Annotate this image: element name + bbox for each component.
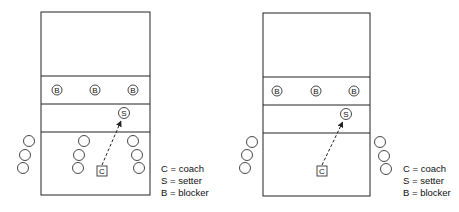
coach-label: C bbox=[99, 167, 105, 176]
waiting-player bbox=[18, 163, 29, 174]
waiting-player bbox=[247, 137, 258, 148]
waiting-player bbox=[381, 164, 392, 175]
legend-item: S = setter bbox=[161, 175, 202, 186]
volleyball-drill-diagrams: BBBSCC = coachS = setterB = blockerBBBSC… bbox=[0, 0, 459, 212]
coach-marker: C bbox=[97, 166, 107, 176]
waiting-player bbox=[379, 151, 390, 162]
legend-item: B = blocker bbox=[161, 187, 209, 198]
blocker-marker: B bbox=[128, 85, 138, 95]
blocker-marker: B bbox=[349, 86, 359, 96]
waiting-player bbox=[242, 150, 253, 161]
setter-label: S bbox=[121, 109, 126, 118]
blocker-label: B bbox=[54, 86, 59, 95]
waiting-player bbox=[132, 150, 143, 161]
blocker-label: B bbox=[130, 86, 135, 95]
coach-label: C bbox=[319, 167, 325, 176]
waiting-player bbox=[375, 137, 386, 148]
blocker-marker: B bbox=[311, 86, 321, 96]
pass-arrow bbox=[102, 121, 121, 165]
waiting-player bbox=[128, 136, 139, 147]
blocker-marker: B bbox=[52, 85, 62, 95]
blocker-label: B bbox=[313, 87, 318, 96]
blocker-marker: B bbox=[272, 86, 282, 96]
setter-marker: S bbox=[341, 109, 352, 120]
blocker-label: B bbox=[351, 87, 356, 96]
blocker-label: B bbox=[92, 86, 97, 95]
coach-marker: C bbox=[317, 166, 327, 176]
legend-item: S = setter bbox=[403, 175, 444, 186]
legend-item: C = coach bbox=[403, 163, 446, 174]
diagram-right: BBBSCC = coachS = setterB = blocker bbox=[240, 13, 451, 198]
waiting-player bbox=[24, 136, 35, 147]
legend-item: B = blocker bbox=[403, 187, 451, 198]
waiting-player bbox=[79, 136, 90, 147]
waiting-player bbox=[134, 163, 145, 174]
legend: C = coachS = setterB = blocker bbox=[161, 163, 209, 198]
blocker-marker: B bbox=[90, 85, 100, 95]
diagram-left: BBBSCC = coachS = setterB = blocker bbox=[18, 12, 209, 198]
waiting-player bbox=[73, 163, 84, 174]
waiting-player bbox=[240, 163, 251, 174]
blocker-label: B bbox=[274, 87, 279, 96]
waiting-player bbox=[20, 150, 31, 161]
waiting-player bbox=[74, 150, 85, 161]
setter-marker: S bbox=[119, 108, 130, 119]
legend-item: C = coach bbox=[161, 163, 204, 174]
setter-label: S bbox=[343, 110, 348, 119]
legend: C = coachS = setterB = blocker bbox=[403, 163, 451, 198]
pass-arrow bbox=[322, 122, 343, 165]
